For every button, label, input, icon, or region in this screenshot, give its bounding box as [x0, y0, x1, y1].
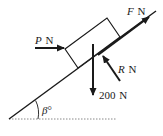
label-f: F N — [126, 5, 145, 17]
label-angle: β° — [41, 104, 52, 116]
label-weight: 200 N — [99, 89, 127, 101]
angle-arc — [36, 101, 39, 120]
force-diagram: F N P N R N 200 N β° — [0, 0, 163, 136]
label-p: P N — [34, 34, 53, 46]
label-r: R N — [117, 63, 136, 75]
